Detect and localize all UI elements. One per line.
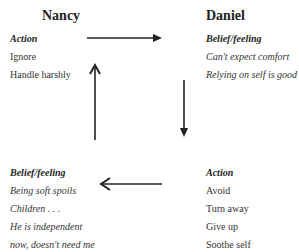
- arrow-down-icon: [180, 80, 188, 137]
- arrow-right-icon: [87, 34, 162, 42]
- arrow-up-icon: [90, 65, 100, 140]
- arrow-left-icon: [101, 178, 162, 190]
